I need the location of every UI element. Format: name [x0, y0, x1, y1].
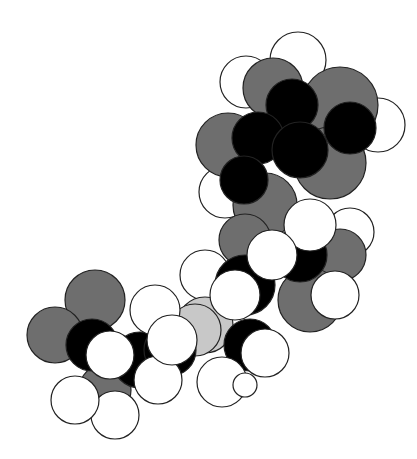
- hydrogen-atom: [147, 315, 197, 365]
- hydrogen-atom: [241, 329, 289, 377]
- hydrogen-atom: [247, 230, 297, 280]
- hydrogen-atom: [51, 376, 99, 424]
- hydrogen-atom: [311, 271, 359, 319]
- dark_atom-atom: [324, 102, 376, 154]
- dark_atom-atom: [220, 156, 268, 204]
- molecule-diagram: [0, 0, 417, 459]
- hydrogen-atom: [210, 270, 260, 320]
- hydrogen-atom: [233, 373, 257, 397]
- space-filling-model: [0, 0, 417, 459]
- hydrogen-atom: [86, 331, 134, 379]
- dark_atom-atom: [272, 122, 328, 178]
